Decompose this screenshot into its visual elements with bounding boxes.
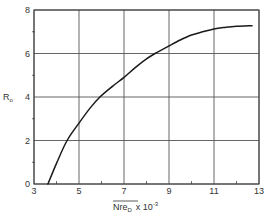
x-tick-labels: 35791113 [31,186,264,196]
x-axis-label-multiplier: x 10 [136,202,153,212]
x-axis-label-sub: D [128,207,133,213]
x-tick-label: 11 [209,186,218,196]
chart: 35791113 02468 Ro NreDx 10-3 [0,0,270,217]
minor-ticks [32,32,237,184]
grid-lines [34,10,259,184]
x-axis-label: NreDx 10-3 [113,201,159,213]
y-tick-label: 4 [25,92,30,102]
x-tick-label: 5 [76,186,81,196]
x-axis-label-exponent: -3 [153,201,159,207]
y-tick-label: 8 [25,5,30,15]
y-tick-label: 0 [25,179,30,189]
x-tick-label: 3 [31,186,36,196]
y-tick-label: 6 [25,49,30,59]
y-axis-label-sub: o [10,97,14,103]
x-tick-label: 9 [166,186,171,196]
x-tick-label: 13 [254,186,264,196]
x-tick-label: 7 [121,186,126,196]
y-tick-labels: 02468 [25,5,30,189]
y-tick-label: 2 [25,136,30,146]
x-axis-label-main: Nre [113,202,128,212]
y-axis-label: Ro [3,92,14,103]
